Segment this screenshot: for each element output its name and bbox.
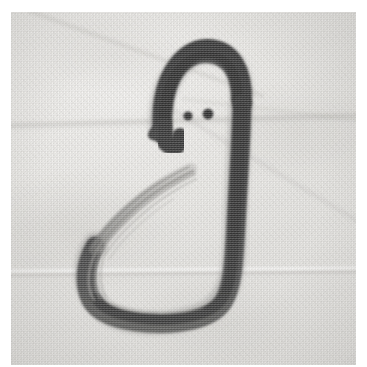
eye-right — [203, 109, 214, 120]
photo-frame — [0, 0, 367, 367]
ink-drawing — [11, 12, 356, 365]
ink-drawing-svg — [11, 12, 356, 365]
photographic-print — [11, 12, 356, 365]
eye-left — [183, 111, 192, 120]
stroke-wing-dry-brush — [93, 167, 196, 259]
